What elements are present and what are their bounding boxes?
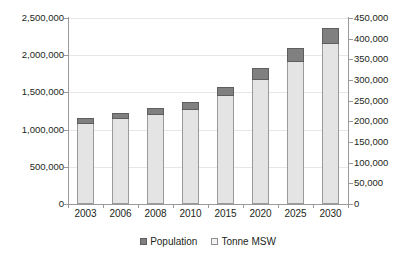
right-tick-mark	[349, 59, 353, 60]
bar-segment-tonne-msw[interactable]	[217, 96, 234, 204]
right-axis-tick-label: 300,000	[354, 75, 388, 85]
right-tick-mark	[349, 204, 353, 205]
bar-segment-population[interactable]	[147, 108, 164, 115]
x-axis-tick-label: 2010	[173, 208, 208, 220]
category-tick-mark	[348, 204, 349, 208]
bar-segment-population[interactable]	[182, 102, 199, 110]
bar-stack[interactable]	[287, 48, 304, 204]
x-axis-tick-label: 2003	[68, 208, 103, 220]
x-axis-tick-label: 2006	[103, 208, 138, 220]
bar-slot	[278, 18, 313, 204]
bar-slot	[138, 18, 173, 204]
bar-segment-tonne-msw[interactable]	[77, 124, 94, 204]
x-axis-tick-label: 2030	[313, 208, 348, 220]
left-axis-tick-label: 1,000,000	[22, 125, 64, 135]
legend-item[interactable]: Population	[140, 236, 197, 247]
right-axis-tick-label: 250,000	[354, 96, 388, 106]
bar-segment-population[interactable]	[252, 68, 269, 80]
right-tick-mark	[349, 18, 353, 19]
bar-stack[interactable]	[77, 118, 94, 204]
right-tick-mark	[349, 142, 353, 143]
bar-segment-population[interactable]	[287, 48, 304, 62]
chart-container: 2,500,000 2,000,000 1,500,000 1,000,000 …	[0, 0, 416, 265]
bar-slot	[243, 18, 278, 204]
left-axis-tick-label: 500,000	[30, 162, 64, 172]
right-axis-tick-label: 350,000	[354, 54, 388, 64]
right-axis-tick-label: 50,000	[354, 178, 383, 188]
right-axis-tick-label: 400,000	[354, 34, 388, 44]
bar-stack[interactable]	[217, 87, 234, 204]
right-axis-line	[348, 17, 349, 205]
bar-segment-tonne-msw[interactable]	[147, 115, 164, 204]
x-axis-tick-label: 2008	[138, 208, 173, 220]
bar-segment-tonne-msw[interactable]	[252, 80, 269, 204]
bar-stack[interactable]	[182, 102, 199, 204]
legend-swatch-tonne-msw-icon	[211, 238, 218, 245]
bar-segment-tonne-msw[interactable]	[322, 44, 339, 204]
right-tick-mark	[349, 121, 353, 122]
right-axis-tick-label: 100,000	[354, 158, 388, 168]
right-tick-mark	[349, 39, 353, 40]
bar-series-layer	[68, 18, 348, 204]
right-axis-tick-label: 0	[354, 199, 359, 209]
x-axis-tick-label: 2020	[243, 208, 278, 220]
x-axis-tick-label: 2025	[278, 208, 313, 220]
left-axis-tick-label: 2,000,000	[22, 50, 64, 60]
bar-segment-tonne-msw[interactable]	[287, 62, 304, 204]
legend-label: Population	[150, 236, 197, 247]
right-tick-mark	[349, 80, 353, 81]
right-axis-tick-label: 450,000	[354, 13, 388, 23]
left-axis-tick-label: 0	[59, 199, 64, 209]
bar-slot	[208, 18, 243, 204]
x-axis-tick-label: 2015	[208, 208, 243, 220]
left-axis-tick-label: 2,500,000	[22, 13, 64, 23]
bar-slot	[173, 18, 208, 204]
legend-swatch-population-icon	[140, 238, 147, 245]
legend-label: Tonne MSW	[221, 236, 275, 247]
right-tick-mark	[349, 101, 353, 102]
legend-item[interactable]: Tonne MSW	[211, 236, 275, 247]
bar-segment-population[interactable]	[217, 87, 234, 97]
right-axis-tick-label: 150,000	[354, 137, 388, 147]
bar-slot	[68, 18, 103, 204]
bar-stack[interactable]	[147, 108, 164, 204]
bar-stack[interactable]	[322, 28, 339, 204]
chart-legend: PopulationTonne MSW	[0, 236, 416, 247]
bar-segment-tonne-msw[interactable]	[182, 110, 199, 204]
right-tick-mark	[349, 183, 353, 184]
bar-slot	[313, 18, 348, 204]
bar-stack[interactable]	[112, 113, 129, 204]
left-axis-tick-label: 1,500,000	[22, 87, 64, 97]
bar-stack[interactable]	[252, 68, 269, 204]
x-axis-labels: 20032006200820102015202020252030	[68, 208, 348, 220]
right-axis-tick-label: 200,000	[354, 116, 388, 126]
right-tick-mark	[349, 163, 353, 164]
bar-slot	[103, 18, 138, 204]
bar-segment-tonne-msw[interactable]	[112, 119, 129, 204]
bar-segment-population[interactable]	[322, 28, 339, 44]
